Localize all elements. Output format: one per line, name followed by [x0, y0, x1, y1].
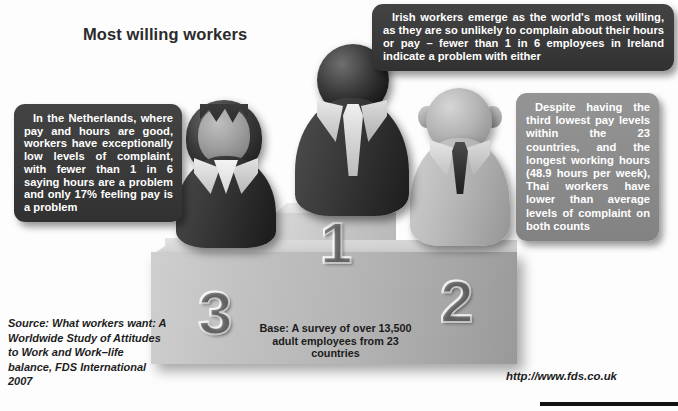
website-url[interactable]: http://www.fds.co.uk — [506, 370, 617, 382]
thailand-callout: Despite having the third lowest pay leve… — [516, 93, 659, 241]
netherlands-callout-text: In the Netherlands, where pay and hours … — [24, 112, 173, 214]
podium-rank-3-numeral: 3 — [198, 282, 232, 344]
podium-rank-2-numeral: 2 — [440, 272, 473, 332]
thailand-callout-text: Despite having the third lowest pay leve… — [526, 101, 650, 233]
ireland-callout-text: Irish workers emerge as the world's most… — [383, 11, 664, 63]
bottom-rule — [540, 402, 678, 406]
podium-rank-1-numeral: 1 — [320, 214, 352, 272]
figure-second-place — [408, 88, 516, 246]
source-note: Source: What workers want: A Worldwide S… — [8, 316, 168, 389]
survey-base-caption: Base: A survey of over 13,500 adult empl… — [253, 322, 418, 360]
figure-third-place — [172, 100, 280, 246]
infographic-canvas: Most willing workers 3 1 2 Base: A surve… — [0, 0, 678, 411]
netherlands-callout: In the Netherlands, where pay and hours … — [14, 104, 182, 222]
ireland-callout: Irish workers emerge as the world's most… — [372, 4, 674, 71]
